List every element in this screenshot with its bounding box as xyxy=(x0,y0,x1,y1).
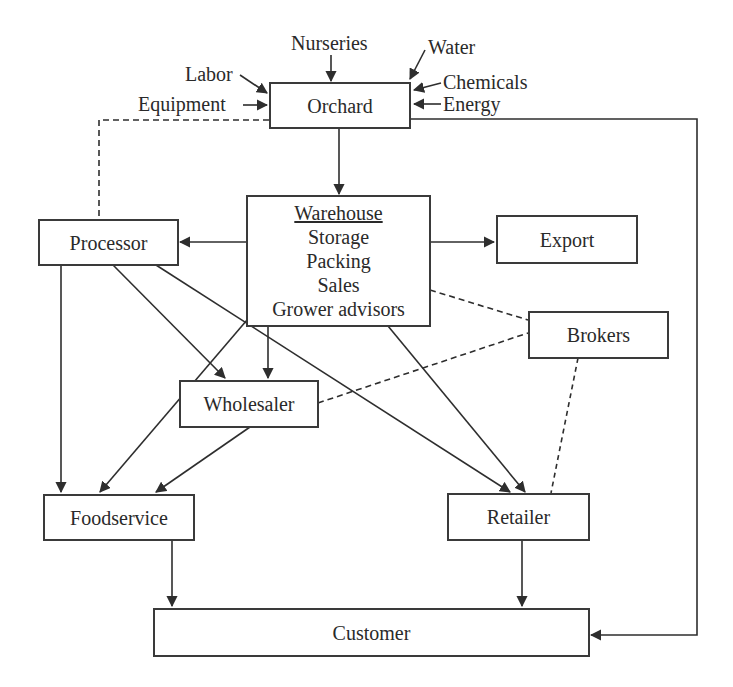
node-warehouse-line-packing: Packing xyxy=(306,249,370,273)
node-warehouse-line-grower-advisors: Grower advisors xyxy=(272,297,405,321)
input-label-equipment: Equipment xyxy=(138,93,226,115)
arrow-orchard-customer xyxy=(411,119,697,635)
node-foodservice-label: Foodservice xyxy=(70,506,168,530)
node-foodservice: Foodservice xyxy=(43,494,195,541)
node-warehouse: Warehouse Storage Packing Sales Grower a… xyxy=(246,195,431,327)
node-customer: Customer xyxy=(153,608,590,657)
dashed-orchard-processor xyxy=(99,120,269,219)
dashed-wholesaler-brokers xyxy=(318,333,528,403)
node-brokers-label: Brokers xyxy=(567,323,630,347)
arrow-wholesaler-foodservice xyxy=(156,427,250,492)
arrow-water-orchard xyxy=(410,50,425,79)
node-wholesaler: Wholesaler xyxy=(179,380,319,428)
input-label-labor: Labor xyxy=(185,63,233,85)
arrow-labor-orchard xyxy=(240,75,267,93)
node-processor: Processor xyxy=(38,219,179,266)
node-retailer: Retailer xyxy=(447,493,590,541)
dashed-brokers-retailer xyxy=(551,358,578,493)
node-retailer-label: Retailer xyxy=(487,505,550,529)
input-label-energy: Energy xyxy=(443,93,500,115)
node-export-label: Export xyxy=(540,228,594,252)
node-orchard: Orchard xyxy=(269,82,411,129)
dashed-warehouse-brokers xyxy=(430,290,528,320)
node-orchard-label: Orchard xyxy=(307,94,373,118)
node-warehouse-line-sales: Sales xyxy=(317,273,359,297)
input-label-chemicals: Chemicals xyxy=(443,71,527,93)
arrow-processor-wholesaler xyxy=(113,265,225,378)
node-wholesaler-label: Wholesaler xyxy=(203,392,294,416)
node-export: Export xyxy=(496,215,638,264)
input-label-nurseries: Nurseries xyxy=(291,32,368,54)
node-brokers: Brokers xyxy=(528,311,669,359)
arrow-chemicals-orchard xyxy=(414,83,441,90)
node-customer-label: Customer xyxy=(333,621,411,645)
node-warehouse-line-storage: Storage xyxy=(308,225,369,249)
arrow-warehouse-retailer xyxy=(388,326,525,492)
node-processor-label: Processor xyxy=(70,231,148,255)
node-warehouse-title: Warehouse xyxy=(294,201,382,225)
input-label-water: Water xyxy=(428,36,475,58)
